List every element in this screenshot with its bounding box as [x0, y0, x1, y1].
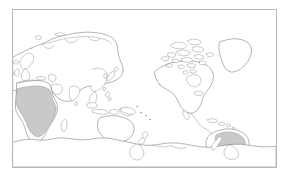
island-caribbean [208, 119, 235, 130]
island-svalbard [36, 36, 41, 40]
island-pacific-group [137, 106, 151, 120]
region-central-america [183, 110, 211, 134]
continent-greenland [219, 39, 252, 73]
world-map-svg [13, 10, 276, 167]
island-new-zealand [139, 131, 148, 144]
map-frame [12, 9, 277, 168]
island-philippines [105, 91, 111, 100]
region-sub-saharan-africa-highlight [16, 86, 56, 137]
world-map-figure: world-map [0, 0, 285, 180]
continent-north-america [155, 61, 214, 113]
island-madagascar [61, 119, 67, 132]
island-taiwan [103, 87, 105, 91]
island-novaya-zemlya [56, 33, 65, 36]
